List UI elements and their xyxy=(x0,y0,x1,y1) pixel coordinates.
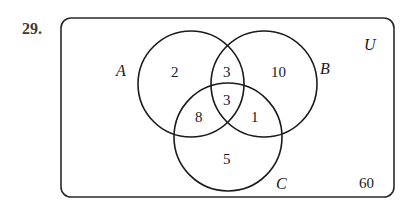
region-a-and-b-only: 3 xyxy=(223,64,231,80)
set-b-circle xyxy=(211,31,317,137)
venn-diagram: A B C U 2 3 10 3 8 1 5 60 xyxy=(0,0,416,208)
set-a-label: A xyxy=(115,62,126,79)
set-c-label: C xyxy=(276,175,287,192)
universe-label: U xyxy=(364,36,377,53)
region-outside: 60 xyxy=(359,175,374,191)
region-b-only: 10 xyxy=(271,64,286,80)
region-a-only: 2 xyxy=(171,64,179,80)
region-b-and-c-only: 1 xyxy=(251,109,259,125)
set-a-circle xyxy=(138,31,244,137)
region-a-and-c-only: 8 xyxy=(195,109,203,125)
set-b-label: B xyxy=(320,60,330,77)
region-a-b-c: 3 xyxy=(223,92,231,108)
region-c-only: 5 xyxy=(223,151,231,167)
